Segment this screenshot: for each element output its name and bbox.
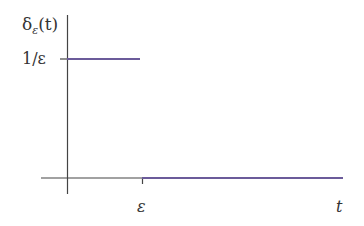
x-axis-label: t: [336, 197, 342, 216]
x-tick-label: ε: [137, 197, 146, 216]
y-label-arg: (t): [38, 14, 58, 34]
y-label-delta: δ: [22, 14, 32, 34]
y-axis-label: δε(t): [22, 14, 58, 37]
y-tick-label: 1/ε: [22, 49, 46, 68]
